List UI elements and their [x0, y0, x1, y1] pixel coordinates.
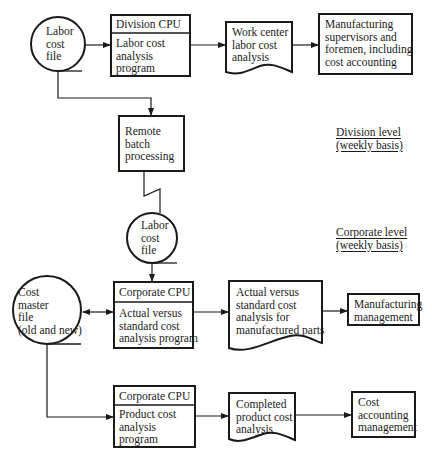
node-text: file [46, 50, 73, 63]
node-text: Labor [141, 219, 168, 232]
flow-arrows [47, 45, 351, 417]
node-text: program [119, 433, 176, 446]
node-text: batch [125, 138, 174, 151]
level-text: Corporate level [336, 226, 407, 239]
node-text: processing [125, 150, 174, 163]
node-text: Cost [18, 286, 82, 299]
work-center-labor-cost-analysis: Work center labor cost analysis [232, 26, 288, 64]
node-text: accounting [358, 409, 417, 422]
node-text: program [116, 62, 165, 75]
node-text: Actual versus [119, 307, 198, 320]
corporate-cpu-2-header: Corporate CPU [119, 390, 190, 403]
node-text: cost [141, 232, 168, 245]
node-text: (old and new) [18, 324, 82, 337]
node-text: analysis [116, 50, 165, 63]
node-text: master [18, 299, 82, 312]
cost-accounting-management: Cost accounting management [358, 396, 417, 434]
node-text: product cost [236, 411, 293, 424]
corporate-cpu-1-header: Corporate CPU [119, 286, 190, 299]
node-text: management [354, 311, 422, 324]
node-text: Actual versus [236, 286, 324, 299]
node-text: management [358, 421, 417, 434]
communication-link [144, 171, 160, 213]
node-text: cost [46, 38, 73, 51]
node-text: Manufacturing [354, 298, 422, 311]
node-text: analysis program [119, 332, 198, 345]
labor-cost-file-2: Labor cost file [141, 219, 168, 257]
node-text: foremen, including [325, 43, 413, 56]
node-text: cost accounting [325, 56, 413, 69]
labor-cost-file-1: Labor cost file [46, 25, 73, 63]
node-text: Completed [236, 398, 293, 411]
remote-batch-processing: Remote batch processing [125, 125, 174, 163]
node-text: supervisors and [325, 31, 413, 44]
manufacturing-management: Manufacturing management [354, 298, 422, 323]
level-text: (weekly basis) [336, 139, 403, 152]
manufacturing-supervisors: Manufacturing supervisors and foremen, i… [325, 18, 413, 68]
division-cpu-program: Labor cost analysis program [116, 37, 165, 75]
node-text: Cost [358, 396, 417, 409]
division-cpu-header: Division CPU [116, 18, 181, 31]
node-text: analysis for [236, 311, 324, 324]
node-text: Work center [232, 26, 288, 39]
node-text: analysis [232, 51, 288, 64]
cost-master-file: Cost master file (old and new) [18, 286, 82, 336]
node-text: labor cost [232, 39, 288, 52]
node-text: standard cost [119, 320, 198, 333]
actual-vs-standard-program: Actual versus standard cost analysis pro… [119, 307, 198, 345]
node-text: file [18, 311, 82, 324]
node-text: Labor [46, 25, 73, 38]
level-text: Division level [336, 126, 403, 139]
actual-vs-standard-report: Actual versus standard cost analysis for… [236, 286, 324, 336]
node-text: Remote [125, 125, 174, 138]
node-text: file [141, 244, 168, 257]
level-text: (weekly basis) [336, 239, 407, 252]
node-text: analysis [236, 423, 293, 436]
completed-product-cost-analysis: Completed product cost analysis [236, 398, 293, 436]
node-text: manufactured parts [236, 324, 324, 337]
node-text: Labor cost [116, 37, 165, 50]
node-text: standard cost [236, 299, 324, 312]
node-text: analysis [119, 421, 176, 434]
product-cost-program: Product cost analysis program [119, 408, 176, 446]
corporate-level-label: Corporate level (weekly basis) [336, 226, 407, 251]
division-level-label: Division level (weekly basis) [336, 126, 403, 151]
node-text: Product cost [119, 408, 176, 421]
node-text: Manufacturing [325, 18, 413, 31]
